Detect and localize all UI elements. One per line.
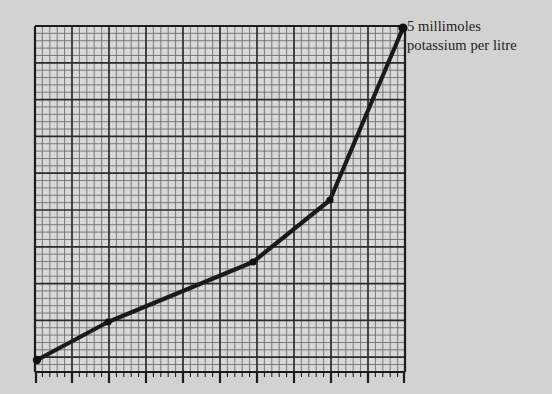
data-point (249, 258, 256, 265)
annotation-line-2: potassium per litre (407, 36, 552, 55)
annotation-line-1: 5 millimoles (407, 17, 552, 36)
curve-endpoint-label: 5 millimoles potassium per litre (407, 17, 552, 55)
chart-figure (0, 0, 552, 394)
data-point (33, 356, 41, 364)
data-point (104, 318, 111, 325)
data-point (326, 196, 333, 203)
